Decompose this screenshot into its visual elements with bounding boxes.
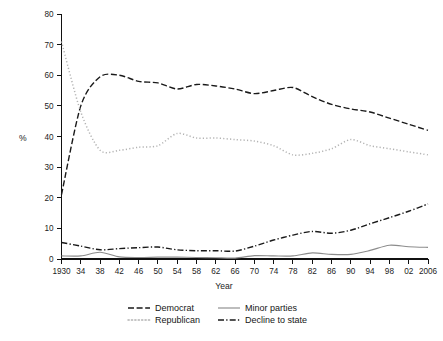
x-tick-label: 50 [153, 267, 163, 276]
legend-label: Minor parties [245, 303, 298, 313]
x-tick-label: 70 [250, 267, 260, 276]
y-tick-label: 70 [44, 41, 54, 50]
x-tick-label: 66 [231, 267, 241, 276]
legend-item-minor-parties[interactable]: Minor parties [218, 303, 298, 313]
y-tick-label: 60 [44, 71, 54, 80]
legend-item-decline-to-state[interactable]: Decline to state [218, 315, 307, 325]
y-tick-label: 50 [44, 102, 54, 111]
x-tick-label: 94 [366, 267, 376, 276]
x-tick-label: 74 [269, 267, 279, 276]
y-tick-label: 40 [44, 133, 54, 142]
chart-legend: DemocratMinor partiesRepublicanDecline t… [128, 303, 307, 325]
data-series-group [62, 42, 429, 259]
x-tick-label: 58 [192, 267, 202, 276]
x-axis-title: Year [215, 281, 233, 291]
x-tick-label: 2006 [419, 267, 438, 276]
legend-item-democrat[interactable]: Democrat [128, 303, 195, 313]
y-axis: 01020304050607080 [44, 10, 61, 264]
x-tick-label: 02 [404, 267, 414, 276]
x-tick-label: 86 [327, 267, 337, 276]
y-axis-title: % [19, 133, 27, 143]
x-tick-label: 90 [346, 267, 356, 276]
y-tick-label: 30 [44, 163, 54, 172]
y-tick-label: 10 [44, 224, 54, 233]
series-line-democrat [62, 74, 429, 195]
legend-label: Democrat [155, 303, 195, 313]
x-tick-label: 78 [288, 267, 298, 276]
legend-label: Republican [155, 315, 200, 325]
y-tick-label: 80 [44, 10, 54, 19]
x-tick-label: 82 [308, 267, 318, 276]
x-tick-label: 46 [134, 267, 144, 276]
x-tick-label: 98 [385, 267, 395, 276]
x-tick-label: 34 [76, 267, 86, 276]
x-tick-label: 42 [115, 267, 125, 276]
y-tick-label: 20 [44, 194, 54, 203]
y-tick-label: 0 [49, 255, 54, 264]
x-tick-label: 38 [96, 267, 106, 276]
series-line-republican [62, 42, 429, 156]
x-tick-label: 54 [173, 267, 183, 276]
party-registration-line-chart: 01020304050607080 1930343842465054586266… [0, 0, 443, 341]
x-tick-label: 62 [211, 267, 221, 276]
x-axis: 1930343842465054586266707478828690949802… [52, 259, 437, 276]
legend-item-republican[interactable]: Republican [128, 315, 200, 325]
x-tick-label: 1930 [52, 267, 71, 276]
legend-label: Decline to state [245, 315, 307, 325]
series-line-decline-to-state [62, 204, 429, 251]
series-line-minor-parties [62, 245, 429, 258]
chart-canvas: 01020304050607080 1930343842465054586266… [0, 0, 443, 341]
